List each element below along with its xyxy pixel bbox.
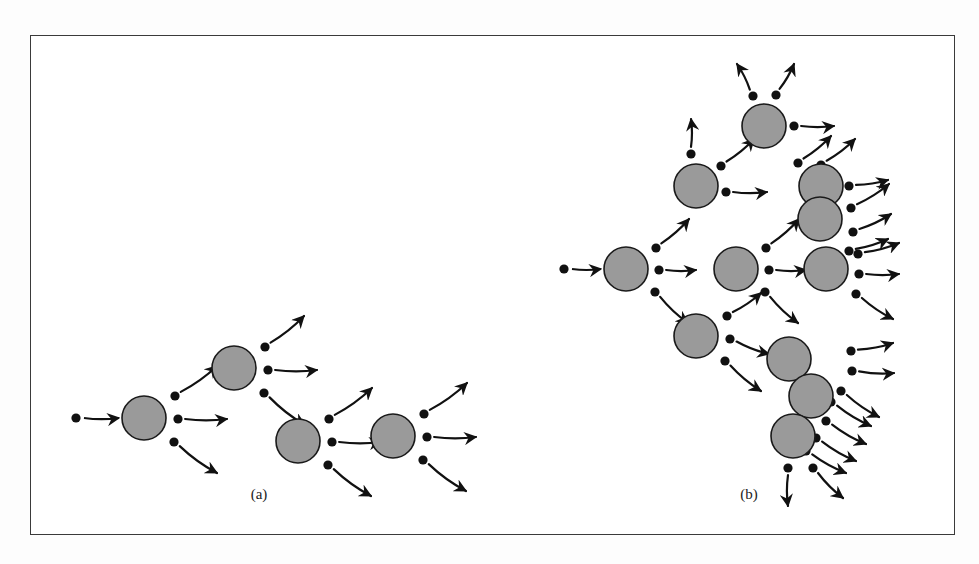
incoming-arrow [559, 264, 601, 273]
emission-arrow [716, 139, 754, 171]
arrow-shaft [787, 475, 788, 506]
emission-dot [720, 356, 729, 365]
emission-dot [771, 90, 780, 99]
arrow-shaft [733, 192, 767, 193]
emission-arrow [651, 219, 689, 253]
arrow-shaft [866, 274, 899, 275]
emission-dot [418, 455, 427, 464]
arrow-shaft [832, 425, 866, 444]
arrow-shaft [691, 119, 692, 147]
graph-node [674, 314, 718, 358]
emission-arrow [771, 64, 794, 100]
page-canvas: (a) (b) [0, 0, 979, 564]
emission-dot [851, 289, 860, 298]
emission-arrow [854, 269, 899, 278]
emission-arrow [422, 432, 476, 441]
emission-dot [170, 391, 179, 400]
arrow-shaft [275, 370, 317, 371]
emission-arrow [853, 243, 899, 259]
emission-arrow [761, 219, 799, 253]
arrow-shaft [180, 446, 217, 473]
emission-arrow [764, 265, 806, 274]
emission-arrow [170, 366, 217, 401]
emission-dot [854, 269, 863, 278]
emission-dot [764, 265, 773, 274]
emission-arrow [783, 463, 792, 506]
arrow-shaft [818, 473, 843, 498]
emission-arrow [760, 287, 798, 323]
emission-dot [721, 187, 730, 196]
graph-node [122, 396, 166, 440]
incoming-arrow [71, 413, 119, 422]
arrow-shaft [776, 270, 806, 271]
graph-node [742, 104, 786, 148]
emission-arrow [323, 460, 371, 496]
emission-arrow [793, 136, 831, 168]
source-dot [71, 413, 80, 422]
emission-arrow [789, 121, 834, 130]
emission-arrow [260, 316, 304, 352]
arrow-shaft [822, 442, 856, 461]
emission-dot [651, 243, 660, 252]
arrow-shaft [271, 316, 304, 343]
graph-node [276, 419, 320, 463]
arrow-shaft [847, 395, 879, 417]
emission-dot [324, 414, 333, 423]
emission-dot [821, 416, 830, 425]
emission-dot [836, 386, 845, 395]
emission-arrow [686, 119, 695, 159]
arrow-shaft [827, 139, 855, 161]
emission-dot [169, 437, 178, 446]
graph-node [212, 346, 256, 390]
arrow-shaft [335, 388, 372, 415]
arrow-shaft [803, 136, 831, 159]
emission-arrow [836, 386, 879, 417]
arrow-shaft [737, 64, 750, 90]
arrow-shaft [733, 293, 761, 312]
emission-arrow [844, 239, 888, 256]
emission-dot [853, 249, 862, 258]
emission-arrow [654, 265, 696, 274]
emission-dot [846, 203, 855, 212]
arrow-shaft [857, 184, 889, 204]
arrow-shaft [859, 214, 891, 229]
emission-dot [650, 287, 659, 296]
emission-arrow [846, 343, 893, 356]
arrow-shaft [856, 180, 888, 185]
panel-b-group [559, 64, 899, 506]
emission-dot [748, 91, 757, 100]
emission-dot [327, 437, 336, 446]
source-dot [559, 264, 568, 273]
graph-node [371, 414, 415, 458]
graph-node [771, 414, 815, 458]
emission-dot [323, 460, 332, 469]
emission-arrow [720, 356, 761, 391]
graph-node [674, 164, 718, 208]
arrow-shaft [434, 437, 476, 438]
emission-arrow [173, 414, 227, 423]
emission-dot [422, 432, 431, 441]
arrow-shaft [666, 270, 696, 271]
emission-arrow [418, 455, 466, 491]
emission-dot [847, 366, 856, 375]
arrow-shaft [572, 269, 601, 270]
arrow-shaft [771, 219, 799, 243]
graph-node [798, 197, 842, 241]
graph-node [604, 247, 648, 291]
arrow-shaft [770, 297, 798, 323]
graph-node [789, 374, 833, 418]
emission-dot [844, 246, 853, 255]
arrow-shaft [737, 342, 769, 354]
arrow-shaft [812, 454, 846, 473]
emission-dot [654, 265, 663, 274]
figure-svg: (a) (b) [31, 36, 956, 536]
emission-dot [173, 414, 182, 423]
emission-arrow [263, 365, 317, 374]
arrow-shaft [858, 343, 893, 350]
emission-arrow [169, 437, 217, 473]
emission-dot [716, 161, 725, 170]
graph-node [804, 247, 848, 291]
emission-dot [793, 158, 802, 167]
emission-dot [760, 287, 769, 296]
emission-arrow [826, 397, 871, 426]
